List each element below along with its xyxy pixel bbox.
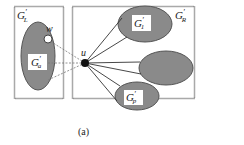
edge-u-mid-a	[85, 62, 140, 63]
subgraph-middle-ellipse	[139, 51, 193, 85]
figure-caption: (a)	[78, 126, 89, 138]
label-ga: G′a	[31, 55, 42, 70]
label-gr: G′R	[175, 8, 187, 24]
node-u	[81, 59, 89, 67]
graph-diagram: G′L G′R G′a G′1 G′p w u (a)	[0, 0, 244, 145]
label-g1: G′1	[134, 16, 144, 31]
label-w: w	[46, 23, 53, 34]
label-gp: G′p	[126, 90, 137, 105]
edge-u-g1-a	[85, 18, 122, 63]
edge-u-g1-b	[85, 37, 127, 63]
node-w	[44, 35, 52, 43]
label-u: u	[81, 47, 86, 58]
label-gl: G′L	[17, 8, 28, 24]
